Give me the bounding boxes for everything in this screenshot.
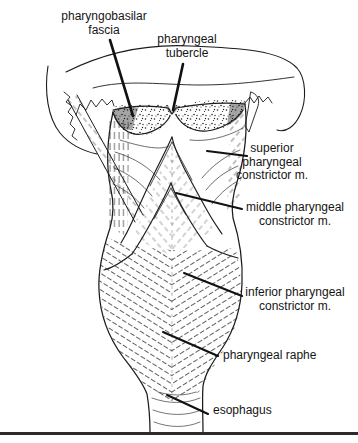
label-line: fascia	[44, 24, 164, 38]
label-line: middle pharyngeal	[232, 201, 358, 215]
anatomy-figure-pharyngeal-constrictors: pharyngobasilar fascia pharyngeal tuberc…	[0, 0, 358, 443]
label-line: constrictor m.	[232, 215, 358, 229]
label-inferior-pharyngeal-constrictor: inferior pharyngeal constrictor m.	[233, 286, 357, 313]
label-esophagus: esophagus	[213, 404, 272, 418]
leader-esophagus	[167, 395, 208, 414]
label-line: tubercle	[147, 47, 227, 61]
figure-bottom-rule	[0, 432, 358, 435]
label-line: constrictor m.	[212, 169, 332, 183]
label-pharyngeal-tubercle: pharyngeal tubercle	[147, 33, 227, 60]
label-line: pharyngeal raphe	[223, 349, 316, 363]
label-line: esophagus	[213, 404, 272, 418]
label-middle-pharyngeal-constrictor: middle pharyngeal constrictor m.	[232, 201, 358, 228]
label-line: pharyngobasilar	[44, 10, 164, 24]
label-line: pharyngeal	[212, 156, 332, 170]
label-superior-pharyngeal-constrictor: superior pharyngeal constrictor m.	[212, 142, 332, 183]
label-line: constrictor m.	[233, 300, 357, 314]
label-pharyngobasilar-fascia: pharyngobasilar fascia	[44, 10, 164, 37]
label-line: superior	[212, 142, 332, 156]
label-line: pharyngeal	[147, 33, 227, 47]
label-line: inferior pharyngeal	[233, 286, 357, 300]
leader-pharyngeal-tubercle	[173, 64, 183, 110]
label-pharyngeal-raphe: pharyngeal raphe	[223, 349, 316, 363]
